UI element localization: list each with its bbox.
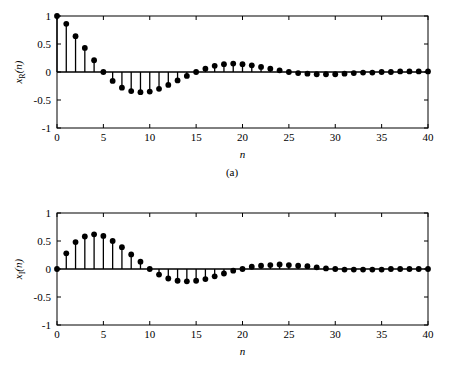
y-axis-title-arg: (n)	[12, 258, 25, 271]
stem-marker	[128, 252, 134, 258]
stem-marker	[342, 71, 348, 77]
stem-marker	[425, 266, 431, 272]
y-tick-label: -1	[42, 122, 51, 134]
stem-marker	[54, 13, 60, 19]
y-axis-title-arg: (n)	[12, 60, 25, 73]
stem-marker	[119, 85, 125, 91]
y-tick-label: -1	[42, 319, 51, 331]
stem-marker	[203, 276, 209, 282]
stem-marker	[360, 267, 366, 273]
stem-marker	[388, 266, 394, 272]
x-tick-label: 25	[283, 328, 295, 340]
x-axis-title: n	[240, 148, 246, 160]
stem-marker	[212, 273, 218, 279]
stem-marker	[416, 266, 422, 272]
stem-marker	[221, 61, 227, 67]
stem-marker	[156, 272, 162, 278]
stem-marker	[416, 69, 422, 75]
x-axis-title: n	[240, 345, 246, 357]
stem-marker	[305, 263, 311, 269]
y-axis-title: xR(n)	[12, 60, 27, 84]
stem-marker	[82, 45, 88, 51]
stem-marker	[314, 264, 320, 270]
stem-marker	[267, 262, 273, 268]
y-tick-label: 0	[46, 263, 52, 275]
stem-marker	[138, 259, 144, 265]
stem-marker	[63, 21, 69, 27]
x-tick-label: 15	[191, 328, 203, 340]
y-tick-label: 0	[46, 66, 52, 78]
x-tick-label: 0	[54, 328, 60, 340]
stem-marker	[295, 263, 301, 269]
subplot-a: 0510152025303540-1-0.500.51nxR(n) (a)	[0, 0, 464, 190]
x-tick-label: 35	[376, 328, 388, 340]
x-tick-label: 0	[54, 131, 60, 143]
y-axis-title: xI(n)	[12, 258, 27, 280]
stem-marker	[230, 268, 236, 274]
y-axis-title-text: xR(n)	[12, 60, 27, 84]
stem-marker	[369, 267, 375, 273]
stem-marker	[286, 262, 292, 268]
plot-canvas-b: 0510152025303540-1-0.500.51nxI(n)	[0, 193, 464, 387]
x-tick-label: 40	[423, 131, 435, 143]
x-tick-label: 20	[237, 328, 249, 340]
y-tick-label: 1	[46, 207, 52, 219]
stem-marker	[425, 69, 431, 75]
y-tick-label: 1	[46, 10, 52, 22]
stem-marker	[110, 78, 116, 84]
stem-marker	[249, 62, 255, 68]
stem-marker	[379, 267, 385, 273]
stem-marker	[128, 88, 134, 94]
stem-marker	[175, 278, 181, 284]
stem-marker	[212, 63, 218, 69]
y-axis-title-text: xI(n)	[12, 258, 27, 280]
stem-marker	[119, 244, 125, 250]
stem-marker	[110, 238, 116, 244]
x-tick-label: 5	[101, 328, 107, 340]
stem-marker	[388, 69, 394, 75]
stem-marker	[332, 71, 338, 77]
stem-marker	[221, 271, 227, 277]
stem-marker	[184, 73, 190, 79]
subplot-caption-a: (a)	[0, 166, 464, 178]
x-tick-label: 10	[144, 131, 156, 143]
stem-marker	[73, 33, 79, 39]
stem-marker	[286, 69, 292, 75]
x-tick-label: 20	[237, 131, 249, 143]
stem-marker	[369, 70, 375, 76]
stem-series	[54, 231, 431, 284]
stem-marker	[379, 69, 385, 75]
stem-marker	[323, 266, 329, 272]
y-tick-label: -0.5	[34, 94, 52, 106]
stem-marker	[147, 266, 153, 272]
x-tick-label: 5	[101, 131, 107, 143]
stem-marker	[193, 278, 199, 284]
stem-marker	[277, 67, 283, 73]
stem-marker	[193, 69, 199, 75]
stem-marker	[73, 239, 79, 245]
x-tick-label: 30	[330, 131, 342, 143]
y-tick-label: 0.5	[37, 38, 51, 50]
stem-marker	[240, 266, 246, 272]
stem-marker	[91, 231, 97, 237]
stem-marker	[397, 69, 403, 75]
x-tick-label: 10	[144, 328, 156, 340]
stem-marker	[314, 71, 320, 77]
stem-marker	[230, 61, 236, 67]
stem-marker	[407, 69, 413, 75]
stem-marker	[91, 57, 97, 63]
stem-marker	[360, 70, 366, 76]
stem-marker	[258, 263, 264, 269]
stem-marker	[305, 71, 311, 77]
stem-marker	[165, 82, 171, 88]
stem-marker	[258, 64, 264, 70]
stem-marker	[351, 70, 357, 76]
stem-series	[54, 13, 431, 95]
stem-marker	[342, 267, 348, 273]
y-tick-label: 0.5	[37, 235, 51, 247]
stem-marker	[323, 71, 329, 77]
stem-marker	[249, 264, 255, 270]
stem-marker	[332, 266, 338, 272]
stem-marker	[138, 89, 144, 95]
stem-marker	[277, 262, 283, 268]
